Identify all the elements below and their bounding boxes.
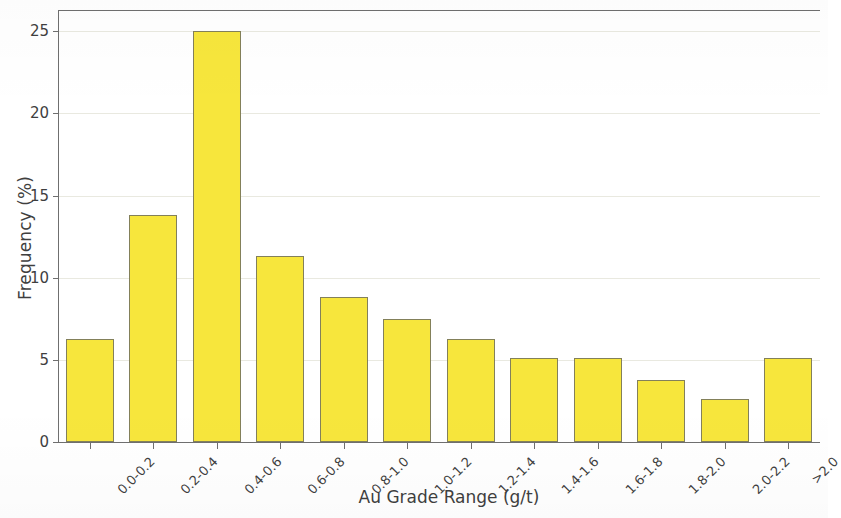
bar (66, 339, 114, 442)
plot-area: 0510152025 0.0-0.20.2-0.40.4-0.60.6-0.80… (58, 10, 820, 443)
x-tick-mark (661, 443, 662, 449)
x-tick-mark (471, 443, 472, 449)
bar (320, 297, 368, 442)
x-tick-mark (280, 443, 281, 449)
bar (510, 358, 558, 442)
x-tick-mark (598, 443, 599, 449)
x-tick-mark (90, 443, 91, 449)
y-tick-mark (53, 113, 58, 114)
bar (701, 399, 749, 442)
bar (764, 358, 812, 442)
plot-frame-top (58, 10, 820, 11)
x-tick-mark (788, 443, 789, 449)
y-tick-label: 20 (30, 104, 49, 122)
y-tick-label: 5 (39, 351, 49, 369)
x-tick-mark (534, 443, 535, 449)
x-tick-mark (153, 443, 154, 449)
x-tick-label: >2.0 (808, 454, 841, 487)
x-axis-line (58, 442, 820, 443)
gridline (59, 113, 820, 114)
x-tick-mark (344, 443, 345, 449)
x-tick-mark (725, 443, 726, 449)
x-axis-title: Au Grade Range (g/t) (0, 487, 828, 507)
y-tick-mark (53, 196, 58, 197)
bar (574, 358, 622, 442)
y-tick-mark (53, 360, 58, 361)
gridline (59, 31, 820, 32)
y-tick-label: 0 (39, 433, 49, 451)
bar (383, 319, 431, 442)
bar (193, 31, 241, 442)
bar (129, 215, 177, 442)
bar (256, 256, 304, 442)
plot-frame-left (58, 10, 59, 443)
bar (447, 339, 495, 442)
y-tick-label: 10 (30, 269, 49, 287)
x-tick-mark (407, 443, 408, 449)
gridline (59, 196, 820, 197)
y-tick-mark (53, 278, 58, 279)
bar (637, 380, 685, 442)
y-tick-mark (53, 31, 58, 32)
y-tick-mark (53, 442, 58, 443)
y-axis-title: Frequency (%) (15, 138, 35, 338)
y-tick-label: 15 (30, 187, 49, 205)
y-tick-label: 25 (30, 22, 49, 40)
x-tick-mark (217, 443, 218, 449)
